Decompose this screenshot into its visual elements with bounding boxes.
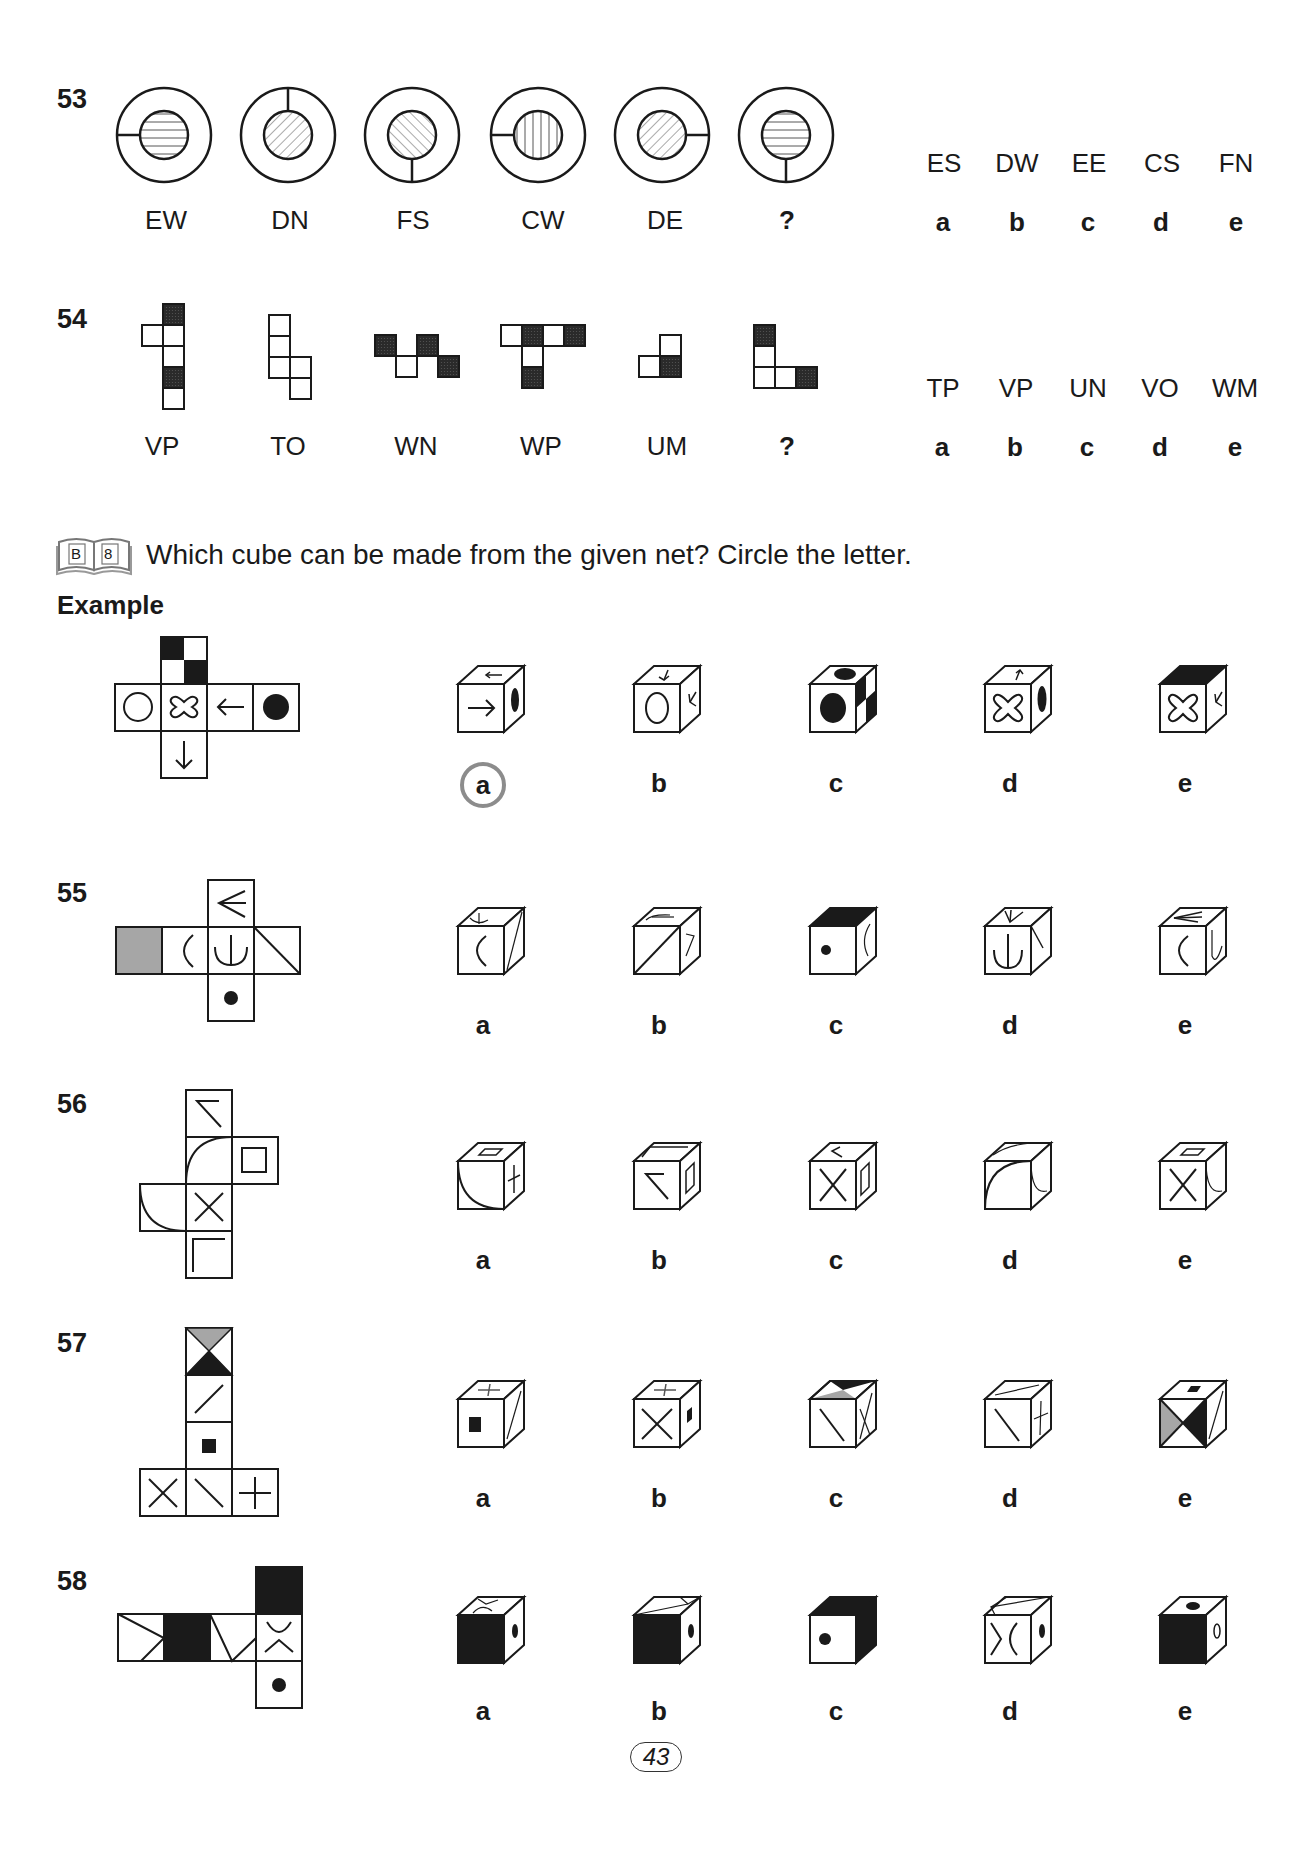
question-number-56: 56 <box>57 1089 87 1120</box>
q57-option-d[interactable]: d <box>980 1483 1040 1514</box>
square-figure-4 <box>500 324 592 396</box>
example-option-d[interactable]: d <box>980 768 1040 799</box>
q54-code-unknown: ? <box>742 431 832 462</box>
q53-code-3: FS <box>368 205 458 236</box>
q53-code-5: DE <box>620 205 710 236</box>
q54-option-c[interactable]: c <box>1057 432 1117 463</box>
example-label: Example <box>57 590 164 621</box>
q56-option-a[interactable]: a <box>453 1245 513 1276</box>
book-label-b: B <box>71 545 81 562</box>
square-figure-5 <box>638 334 688 384</box>
example-cube-b[interactable] <box>632 664 702 736</box>
q56-option-d[interactable]: d <box>980 1245 1040 1276</box>
q58-cube-a[interactable] <box>456 1595 526 1667</box>
q54-option-e[interactable]: e <box>1205 432 1265 463</box>
q56-option-e[interactable]: e <box>1155 1245 1215 1276</box>
q55-cube-d[interactable] <box>983 906 1053 978</box>
q56-cube-e[interactable] <box>1158 1141 1228 1213</box>
question-number-55: 55 <box>57 878 87 909</box>
book-icon <box>56 536 136 576</box>
q57-option-a[interactable]: a <box>453 1483 513 1514</box>
square-figure-3 <box>374 334 466 384</box>
q54-code-2: TO <box>243 431 333 462</box>
example-option-c[interactable]: c <box>806 768 866 799</box>
q53-option-code-e: FN <box>1196 148 1276 179</box>
q57-option-e[interactable]: e <box>1155 1483 1215 1514</box>
ring-figure-unknown <box>737 86 835 184</box>
q53-option-d[interactable]: d <box>1131 207 1191 238</box>
q56-cube-c[interactable] <box>808 1141 878 1213</box>
q56-cube-b[interactable] <box>632 1141 702 1213</box>
q53-option-code-a: ES <box>904 148 984 179</box>
q58-cube-c[interactable] <box>808 1595 878 1667</box>
q55-option-c[interactable]: c <box>806 1010 866 1041</box>
q53-option-code-c: EE <box>1049 148 1129 179</box>
example-cube-e[interactable] <box>1158 664 1228 736</box>
q53-option-e[interactable]: e <box>1206 207 1266 238</box>
q54-option-code-d: VO <box>1120 373 1200 404</box>
instruction-text: Which cube can be made from the given ne… <box>146 539 912 571</box>
q58-cube-b[interactable] <box>632 1595 702 1667</box>
question-number-58: 58 <box>57 1566 87 1597</box>
q54-option-b[interactable]: b <box>985 432 1045 463</box>
q56-option-c[interactable]: c <box>806 1245 866 1276</box>
q53-code-1: EW <box>121 205 211 236</box>
q58-option-d[interactable]: d <box>980 1696 1040 1727</box>
q53-option-b[interactable]: b <box>987 207 1047 238</box>
example-answer-letter: a <box>476 770 490 801</box>
q57-cube-b[interactable] <box>632 1379 702 1451</box>
q55-option-a[interactable]: a <box>453 1010 513 1041</box>
q55-cube-b[interactable] <box>632 906 702 978</box>
example-cube-a[interactable] <box>456 664 526 736</box>
q58-cube-e[interactable] <box>1158 1595 1228 1667</box>
question-number-54: 54 <box>57 304 87 335</box>
ring-figure-1 <box>115 86 213 184</box>
q57-cube-a[interactable] <box>456 1379 526 1451</box>
example-cube-d[interactable] <box>983 664 1053 736</box>
ring-figure-4 <box>489 86 587 184</box>
q55-option-b[interactable]: b <box>629 1010 689 1041</box>
q56-option-b[interactable]: b <box>629 1245 689 1276</box>
q54-option-code-a: TP <box>903 373 983 404</box>
ring-figure-3 <box>363 86 461 184</box>
q55-cube-e[interactable] <box>1158 906 1228 978</box>
example-cube-c[interactable] <box>808 664 878 736</box>
example-option-b[interactable]: b <box>629 768 689 799</box>
q53-option-a[interactable]: a <box>913 207 973 238</box>
q54-option-code-b: VP <box>976 373 1056 404</box>
q55-option-d[interactable]: d <box>980 1010 1040 1041</box>
q57-cube-d[interactable] <box>983 1379 1053 1451</box>
q57-cube-c[interactable] <box>808 1379 878 1451</box>
q58-cube-d[interactable] <box>983 1595 1053 1667</box>
square-figure-1 <box>141 303 191 413</box>
example-option-e[interactable]: e <box>1155 768 1215 799</box>
book-label-8: 8 <box>104 545 112 562</box>
example-answer-circled-a[interactable]: a <box>460 762 506 808</box>
q58-option-c[interactable]: c <box>806 1696 866 1727</box>
q55-cube-c[interactable] <box>808 906 878 978</box>
q58-option-e[interactable]: e <box>1155 1696 1215 1727</box>
q57-option-c[interactable]: c <box>806 1483 866 1514</box>
q55-option-e[interactable]: e <box>1155 1010 1215 1041</box>
q53-option-code-b: DW <box>977 148 1057 179</box>
q55-cube-a[interactable] <box>456 906 526 978</box>
q57-cube-e[interactable] <box>1158 1379 1228 1451</box>
q54-code-3: WN <box>371 431 461 462</box>
question-number-53: 53 <box>57 84 87 115</box>
q58-net <box>117 1566 307 1710</box>
q56-cube-d[interactable] <box>983 1141 1053 1213</box>
q57-option-b[interactable]: b <box>629 1483 689 1514</box>
q58-option-b[interactable]: b <box>629 1696 689 1727</box>
example-net <box>114 636 304 780</box>
q53-option-code-d: CS <box>1122 148 1202 179</box>
q54-option-a[interactable]: a <box>912 432 972 463</box>
q53-code-2: DN <box>245 205 335 236</box>
q54-code-1: VP <box>117 431 207 462</box>
q53-option-c[interactable]: c <box>1058 207 1118 238</box>
q54-option-d[interactable]: d <box>1130 432 1190 463</box>
q56-cube-a[interactable] <box>456 1141 526 1213</box>
q58-option-a[interactable]: a <box>453 1696 513 1727</box>
q54-code-4: WP <box>496 431 586 462</box>
ring-figure-5 <box>613 86 711 184</box>
ring-figure-2 <box>239 86 337 184</box>
